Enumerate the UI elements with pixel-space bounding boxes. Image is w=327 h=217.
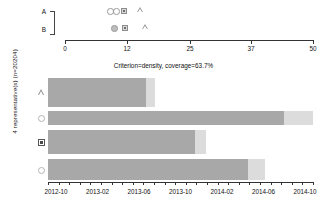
top-axis-tick-label: 50 — [309, 45, 316, 52]
top-axis-tick-label: 25 — [186, 45, 193, 52]
x-axis-tick — [133, 182, 134, 185]
bar-tail-segment — [195, 130, 206, 154]
top-axis-tick — [190, 40, 191, 44]
top-axis-tick-label: 0 — [63, 45, 67, 52]
x-axis-tick — [112, 182, 113, 185]
main-bar-panel: Criterion=density, coverage=63.7% 2012-1… — [0, 56, 327, 217]
x-axis-tick — [122, 182, 123, 185]
x-axis-tick — [249, 182, 250, 185]
top-marker-circle-b1 — [111, 25, 118, 32]
bar-main-segment — [48, 111, 284, 125]
x-axis-tick — [302, 182, 303, 185]
x-axis-tick — [59, 182, 60, 185]
top-axis-tick — [65, 40, 66, 44]
top-axis-tick-label: 37 — [247, 45, 254, 52]
x-axis-tick — [260, 182, 261, 185]
x-axis-line — [48, 182, 313, 183]
top-marker-triangle-b — [142, 24, 148, 29]
top-axis-tick-label: 12 — [123, 45, 130, 52]
x-axis-tick-label: 2012-10 — [44, 188, 67, 195]
x-axis-tick — [154, 182, 155, 185]
x-axis-tick-label: 2013-02 — [86, 188, 109, 195]
bar-row-triangle — [48, 78, 155, 107]
bar-main-segment — [48, 130, 195, 154]
row-marker-square — [38, 139, 45, 146]
top-marker-triangle-a — [137, 7, 143, 12]
x-axis-tick — [48, 182, 49, 185]
bar-row-circle-1 — [48, 111, 313, 125]
x-axis-tick — [186, 182, 187, 185]
x-axis-tick — [90, 182, 91, 185]
row-marker-circle-2 — [38, 167, 45, 174]
x-axis-tick-label: 2013-10 — [169, 188, 192, 195]
top-axis-line — [65, 40, 313, 41]
bar-main-segment — [48, 78, 146, 107]
x-axis-tick — [69, 182, 70, 185]
x-axis-tick-label: 2014-06 — [252, 188, 275, 195]
top-marker-circle-a2 — [113, 8, 120, 15]
row-marker-triangle — [38, 89, 45, 95]
x-axis-tick — [292, 182, 293, 185]
x-axis-tick — [228, 182, 229, 185]
x-axis-tick — [101, 182, 102, 185]
top-row-label-a: A — [34, 8, 46, 15]
x-axis-tick — [165, 182, 166, 185]
top-marker-square-a — [121, 8, 127, 14]
x-axis-tick — [207, 182, 208, 185]
top-axis-tick — [251, 40, 252, 44]
x-axis-tick — [271, 182, 272, 185]
chart-root: 4 representative(s) (n=20204) A B 0 12 2… — [0, 0, 327, 217]
x-axis-tick-label: 2013-06 — [127, 188, 150, 195]
bar-tail-segment — [146, 78, 155, 107]
top-axis-tick — [127, 40, 128, 44]
chart-title: Criterion=density, coverage=63.7% — [0, 62, 327, 69]
x-axis-tick — [80, 182, 81, 185]
x-axis-tick-label: 2014-02 — [210, 188, 233, 195]
group-bracket — [50, 11, 55, 35]
top-marker-square-b — [122, 25, 128, 31]
x-axis-tick-label: 2014-10 — [293, 188, 316, 195]
bar-tail-segment — [248, 159, 265, 180]
row-marker-circle-1 — [38, 115, 45, 122]
x-axis-tick — [281, 182, 282, 185]
top-summary-panel: A B 0 12 25 37 50 — [0, 0, 327, 56]
bar-main-segment — [48, 159, 248, 180]
bar-row-square — [48, 130, 206, 154]
x-axis-tick — [313, 182, 314, 185]
x-axis-tick — [239, 182, 240, 185]
top-axis-tick — [313, 40, 314, 44]
bar-row-circle-2 — [48, 159, 265, 180]
x-axis-tick — [196, 182, 197, 185]
top-row-label-b: B — [34, 26, 46, 33]
x-axis-tick — [218, 182, 219, 185]
x-axis-tick — [175, 182, 176, 185]
x-axis-tick — [143, 182, 144, 185]
bar-tail-segment — [284, 111, 313, 125]
